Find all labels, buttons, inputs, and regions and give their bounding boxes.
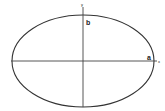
semi-minor-label-b: b — [86, 19, 90, 26]
x-axis-label: x — [158, 59, 160, 64]
ellipse-diagram: x y b a — [0, 0, 165, 111]
semi-major-label-a: a — [147, 54, 151, 61]
y-axis-label: y — [81, 2, 83, 7]
